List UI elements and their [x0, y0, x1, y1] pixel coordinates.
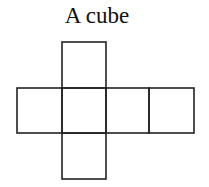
face-far-right: [149, 88, 194, 133]
face-center: [62, 88, 106, 133]
face-bottom: [62, 133, 106, 179]
face-top: [62, 42, 106, 88]
cube-net: [0, 0, 209, 187]
face-right: [106, 88, 149, 133]
face-left: [17, 88, 62, 133]
